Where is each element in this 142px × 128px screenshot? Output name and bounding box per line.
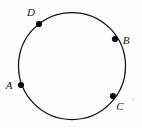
point-label-d: D [26,6,35,18]
diagram-canvas: A B C D [0,0,142,128]
circle-outline [19,13,126,120]
point-marker-d [36,21,42,27]
circle-diagram: A B C D [0,0,142,128]
point-marker-c [110,93,116,99]
point-label-c: C [116,100,124,112]
point-label-a: A [5,79,13,91]
scan-speck [132,98,133,99]
point-label-b: B [123,34,130,46]
point-marker-a [18,82,24,88]
point-marker-b [112,36,118,42]
